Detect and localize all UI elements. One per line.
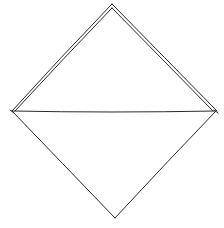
diamond-drawing bbox=[0, 0, 224, 228]
upper-left-edge-inner bbox=[15, 8, 112, 111]
upper-right-edge-inner bbox=[112, 8, 213, 111]
diagram-canvas bbox=[0, 0, 224, 228]
upper-right-edge-outer bbox=[112, 4, 217, 111]
lower-right-edge bbox=[115, 111, 216, 218]
upper-left-edge-outer bbox=[12, 4, 112, 111]
horizontal-diagonal bbox=[12, 111, 216, 112]
lower-left-edge bbox=[12, 111, 115, 218]
